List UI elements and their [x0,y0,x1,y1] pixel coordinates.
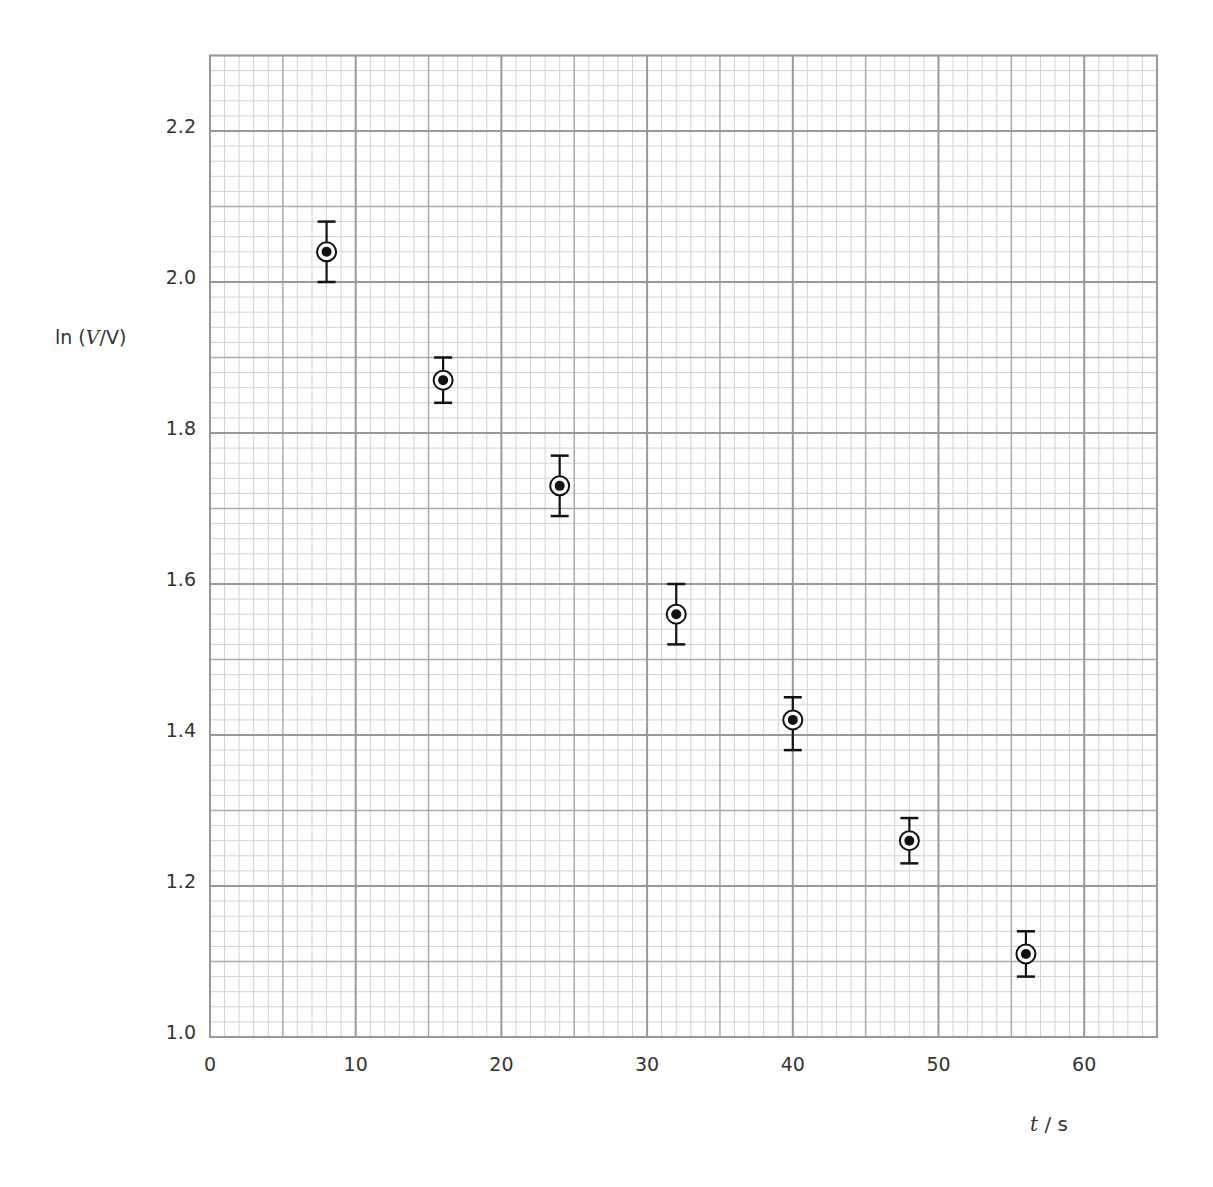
x-tick-label: 40 [781,1053,805,1075]
y-tick-label: 1.4 [166,719,196,741]
x-axis-tick-labels: 0102030405060 [204,1053,1096,1075]
y-axis-label: ln (V/V) [55,326,126,348]
plot-frame [210,56,1157,1038]
x-tick-label: 30 [635,1053,659,1075]
y-axis-label-prefix: ln ( [55,326,86,348]
y-axis-tick-labels: 1.01.21.41.61.82.02.2 [166,115,196,1043]
y-tick-label: 2.2 [166,115,196,137]
y-tick-label: 1.6 [166,568,196,590]
x-axis-label-unit: / s [1038,1112,1068,1136]
grid-minor-lines [210,56,1157,1038]
x-tick-label: 20 [489,1053,513,1075]
x-axis-label-variable: t [1030,1112,1038,1136]
data-point [667,584,686,644]
y-axis-label-suffix: /V) [100,326,127,348]
data-point [550,456,569,516]
data-point [434,358,453,403]
y-tick-label: 1.8 [166,417,196,439]
y-tick-label: 1.0 [166,1021,196,1043]
data-point [1016,931,1035,976]
marker-dot-icon [788,715,798,725]
grid-major-lines [210,56,1157,1038]
x-tick-label: 50 [926,1053,950,1075]
x-tick-label: 60 [1072,1053,1096,1075]
marker-dot-icon [1021,949,1031,959]
data-point [317,222,336,282]
marker-dot-icon [438,375,448,385]
x-tick-label: 10 [344,1053,368,1075]
marker-dot-icon [671,609,681,619]
marker-dot-icon [322,247,332,257]
data-point [900,818,919,863]
x-tick-label: 0 [204,1053,216,1075]
grid-medium-lines [210,56,1157,1038]
marker-dot-icon [555,481,565,491]
x-axis-label: t / s [1030,1112,1068,1136]
y-tick-label: 2.0 [166,266,196,288]
y-axis-label-variable: V [86,326,100,348]
chart-plot-area: 0102030405060 1.01.21.41.61.82.02.2 [0,0,1213,1187]
marker-dot-icon [904,836,914,846]
y-tick-label: 1.2 [166,870,196,892]
